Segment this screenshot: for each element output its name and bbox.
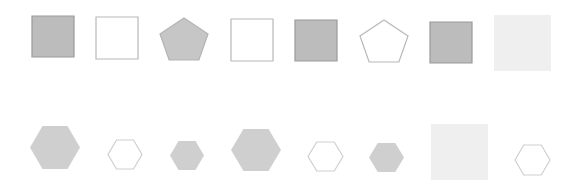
square-outline-shape	[231, 19, 273, 61]
hexagon-filled-shape	[30, 126, 80, 169]
hexagon-outline-shape	[515, 145, 550, 175]
pentagon-filled-shape	[160, 18, 208, 60]
square-filled-dark-shape	[32, 16, 74, 57]
hexagon-outline-shape	[308, 142, 343, 171]
hexagon-outline-shape	[108, 140, 142, 169]
square-filled-dark-shape	[295, 20, 337, 61]
square-filled-light-shape	[494, 15, 551, 71]
hexagon-filled-shape	[170, 141, 204, 170]
square-filled-dark-shape	[430, 22, 472, 63]
hexagon-filled-shape	[369, 143, 404, 172]
square-filled-light-shape	[431, 124, 488, 180]
square-outline-shape	[96, 17, 138, 59]
hexagon-filled-shape	[231, 129, 281, 171]
pentagon-outline-shape	[360, 20, 408, 62]
